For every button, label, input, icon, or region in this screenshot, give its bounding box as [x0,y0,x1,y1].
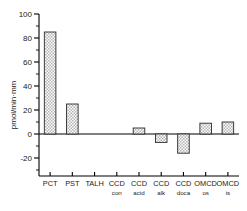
x-axis-category-sublabel: doca [177,189,191,196]
bar [133,128,145,134]
x-axis-category-sublabel: alk [157,189,166,196]
bar [178,134,190,153]
x-axis-category-label: OMCD [194,179,217,188]
y-axis-tick-label: 40 [23,82,32,91]
y-axis-tick-label: -20 [20,154,32,163]
x-axis-category-label: OMCD [217,179,240,188]
y-axis-tick-label: 100 [19,10,33,19]
x-axis-category-sublabel: acid [133,189,145,196]
y-axis-tick-label: 20 [23,106,32,115]
x-axis-category-label: PCT [43,179,58,188]
bar [44,32,56,134]
x-axis-category-sublabel: con [112,189,123,196]
y-axis-tick-label: 80 [23,34,32,43]
x-axis-category-label: PST [65,179,80,188]
bar [67,104,79,134]
x-axis-category-label: CCD [153,179,169,188]
x-axis-category-label: TALH [85,179,103,188]
x-axis-category-sublabel: is [226,189,230,196]
y-axis-tick-label: 60 [23,58,32,67]
chart-canvas: pmol/min·mm -20020406080100 PCTPSTTALHCC… [0,0,247,211]
x-axis-category-sublabel: os [202,189,209,196]
x-axis-category-label: CCD [131,179,147,188]
x-axis-category-label: CCD [109,179,125,188]
bar-chart: pmol/min·mm -20020406080100 PCTPSTTALHCC… [0,0,247,211]
y-axis-title-label: pmol/min·mm [9,80,18,129]
bar [222,122,234,134]
x-axis-category-label: CCD [175,179,191,188]
bar [155,134,167,142]
bar [200,123,212,134]
y-axis-title: pmol/min·mm [9,80,18,129]
y-axis-tick-label: 0 [28,130,33,139]
